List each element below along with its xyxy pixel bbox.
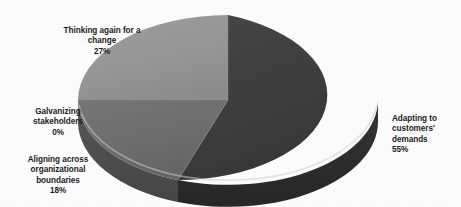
pie-label-galvanizing-percent: 0% [6,128,110,138]
pie-label-adapting-text: Adapting to customers' demands [392,114,437,143]
pie-label-adapting-percent: 55% [392,145,460,155]
pie-label-thinking-text: Thinking again for a change [64,26,141,45]
pie-label-galvanizing-text: Galvanizing stakeholders [33,107,83,126]
pie-label-adapting-to-customers-demands: Adapting to customers' demands 55% [392,104,460,165]
pie-label-aligning-across-organizational-boundaries: Aligning across organizational boundarie… [3,145,113,206]
pie-label-aligning-text: Aligning across organizational boundarie… [28,155,89,184]
pie-label-thinking-percent: 27% [40,47,164,57]
pie-label-galvanizing-stakeholders: Galvanizing stakeholders 0% [6,97,110,148]
pie-label-thinking-again-for-a-change: Thinking again for a change 27% [40,16,164,67]
pie-chart-figure: Thinking again for a change 27% Galvaniz… [0,0,461,207]
pie-label-aligning-percent: 18% [3,186,113,196]
